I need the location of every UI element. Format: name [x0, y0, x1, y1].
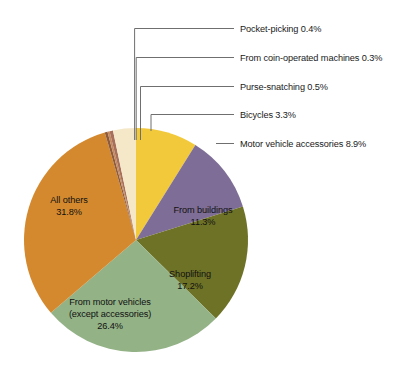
- callout-label-motor-vehicle-accessories: Motor vehicle accessories 8.9%: [240, 139, 366, 149]
- callout-label-bicycles: Bicycles 3.3%: [240, 110, 296, 120]
- slice-label-all-others-name: All others: [50, 195, 88, 205]
- leader-line-bicycles: [151, 115, 234, 132]
- slice-label-shoplifting-percent: 17.2%: [177, 281, 203, 291]
- leader-line-pocket-picking: [135, 29, 234, 141]
- slice-label-from-motor-vehicles-line2: (except accessories): [69, 309, 151, 319]
- callout-label-purse-snatching: Purse-snatching 0.5%: [240, 82, 328, 92]
- leader-line-group: [135, 29, 234, 144]
- slice-label-shoplifting-name: Shoplifting: [169, 269, 211, 279]
- callout-label-pocket-picking: Pocket-picking 0.4%: [240, 24, 321, 34]
- slice-label-from-buildings-percent: 11.3%: [191, 217, 216, 227]
- slice-label-from-buildings-name: From buildings: [174, 205, 233, 215]
- slice-label-from-motor-vehicles-percent: 26.4%: [97, 321, 123, 331]
- slice-label-from-motor-vehicles-line1: From motor vehicles: [69, 297, 151, 307]
- slice-label-all-others-percent: 31.8%: [56, 207, 82, 217]
- callout-label-coin-operated: From coin-operated machines 0.3%: [240, 53, 382, 63]
- callout-label-group: Pocket-picking 0.4% From coin-operated m…: [240, 24, 382, 149]
- pie-chart-figure: Pocket-picking 0.4% From coin-operated m…: [0, 0, 393, 381]
- pie-chart-canvas: Pocket-picking 0.4% From coin-operated m…: [0, 0, 393, 381]
